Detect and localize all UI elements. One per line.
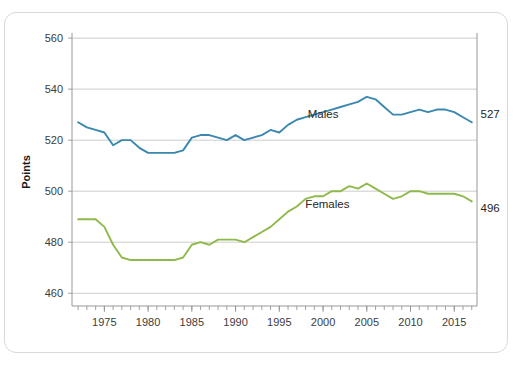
x-tick-label: 2010 (398, 316, 422, 328)
series-line-males (78, 97, 472, 153)
y-tick-label: 480 (45, 236, 63, 248)
plot-border (72, 33, 477, 306)
x-tick-label: 1990 (223, 316, 247, 328)
data-series (78, 97, 472, 260)
x-tick-label: 2005 (355, 316, 379, 328)
series-line-females (78, 184, 472, 261)
annotations: MalesFemales527496 (305, 108, 499, 213)
x-axis: 197519801985199019952000200520102015 (72, 306, 477, 328)
series-label-text: Males (308, 108, 339, 120)
chart-svg: 460480500520540560 197519801985199019952… (0, 0, 521, 367)
y-tick-label: 500 (45, 185, 63, 197)
line-chart: 460480500520540560 197519801985199019952… (0, 0, 521, 367)
x-tick-label: 1995 (267, 316, 291, 328)
y-axis-title: Points (20, 155, 32, 189)
end-value-label: 496 (480, 202, 499, 214)
x-tick-label: 1980 (136, 316, 160, 328)
y-tick-label: 560 (45, 32, 63, 44)
axis-titles: Points (20, 155, 32, 189)
x-tick-label: 1975 (92, 316, 116, 328)
x-tick-label: 2000 (311, 316, 335, 328)
y-tick-label: 540 (45, 83, 63, 95)
y-tick-label: 520 (45, 134, 63, 146)
series-label-text: Females (305, 198, 349, 210)
gridlines (72, 38, 477, 293)
x-tick-label: 1985 (180, 316, 204, 328)
end-value-label: 527 (480, 108, 499, 120)
y-axis: 460480500520540560 (45, 32, 72, 299)
y-tick-label: 460 (45, 287, 63, 299)
x-tick-label: 2015 (442, 316, 466, 328)
